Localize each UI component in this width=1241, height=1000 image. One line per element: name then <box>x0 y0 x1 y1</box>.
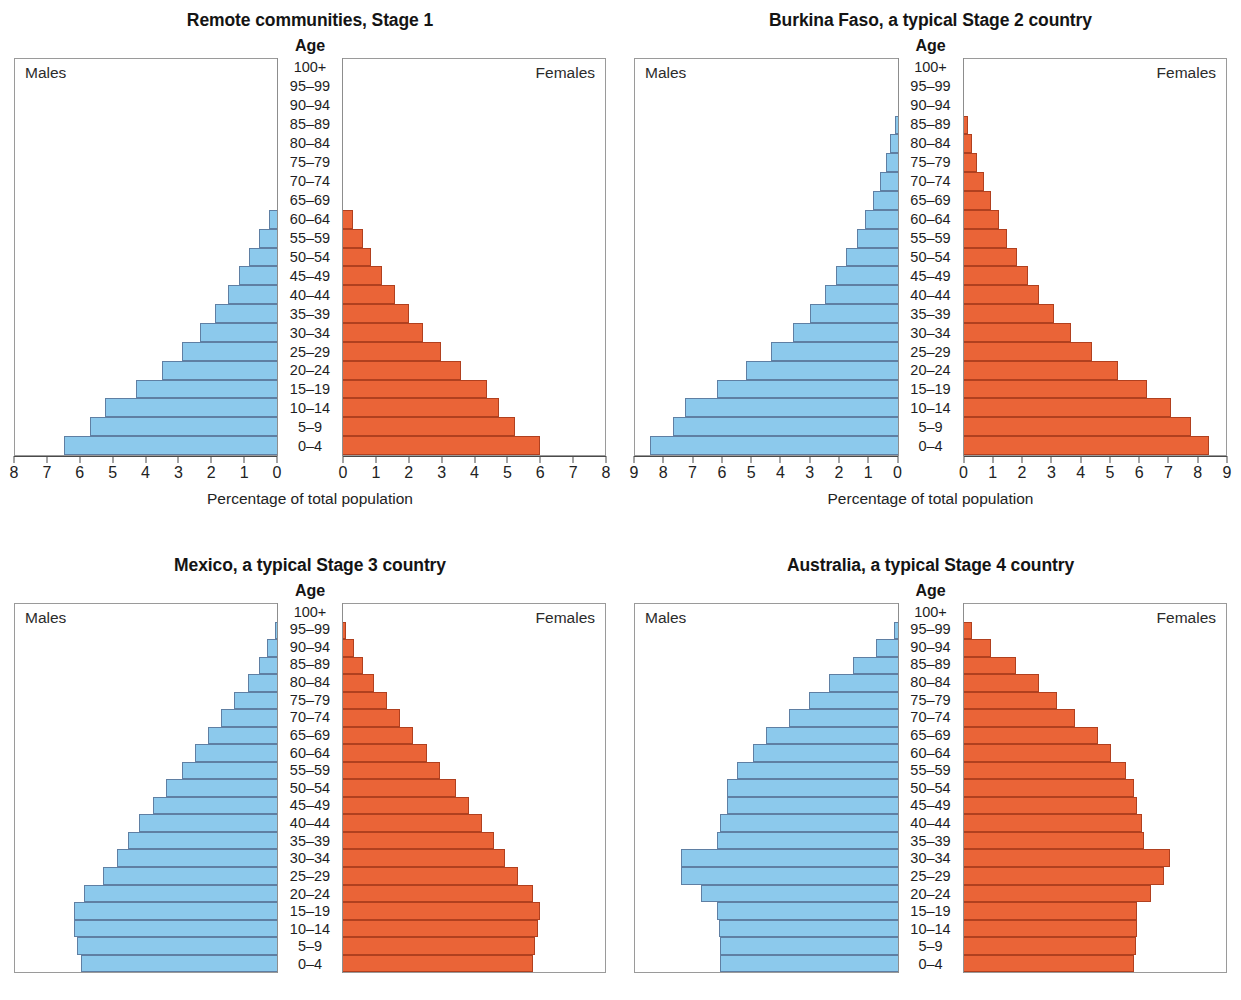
male-bar <box>259 657 277 675</box>
bar-row <box>343 604 605 622</box>
plot-area: Males 100+95–9990–9485–8980–8475–7970–74… <box>634 58 1227 456</box>
axis-tick-label: 6 <box>1135 464 1144 482</box>
bar-row <box>964 116 1227 135</box>
female-bar <box>964 210 999 229</box>
axis-wrap: 876543210 012345678 Percentage of total … <box>14 456 606 508</box>
bar-row <box>343 727 605 745</box>
age-group-label: 10–14 <box>278 399 342 418</box>
age-group-label: 5–9 <box>899 418 963 437</box>
bar-row <box>343 885 605 903</box>
bar-row <box>635 814 898 832</box>
axis-tick-label: 0 <box>339 464 348 482</box>
age-group-label: 20–24 <box>278 361 342 380</box>
bar-row <box>635 849 898 867</box>
bar-row <box>964 832 1227 850</box>
axis-tick-label: 8 <box>659 464 668 482</box>
bar-row <box>343 342 605 361</box>
age-group-label: 15–19 <box>899 380 963 399</box>
males-plot-box: Males <box>14 603 277 973</box>
male-bar <box>249 248 277 267</box>
bar-row <box>635 323 898 342</box>
bar-row <box>964 153 1227 172</box>
axis-tick-label: 7 <box>688 464 697 482</box>
male-bar <box>208 727 277 745</box>
male-bar <box>685 398 898 417</box>
female-bar <box>964 832 1144 850</box>
female-bar <box>964 639 992 657</box>
female-bar <box>964 727 1099 745</box>
male-bar <box>162 361 277 380</box>
bar-row <box>15 59 277 78</box>
age-label-column: 100+95–9990–9485–8980–8475–7970–7465–696… <box>277 603 343 973</box>
axis-tick-label: 2 <box>1018 464 1027 482</box>
bar-row <box>15 436 277 455</box>
male-bar <box>809 692 898 710</box>
male-bar <box>215 304 277 323</box>
bar-row <box>343 323 605 342</box>
axis-tick-label: 0 <box>893 464 902 482</box>
bar-row <box>964 323 1227 342</box>
age-group-label: 65–69 <box>899 191 963 210</box>
chart-panel-remote-communities: Remote communities, Stage 1 Age Males 10… <box>0 0 620 545</box>
male-bar <box>717 902 897 920</box>
female-bar <box>343 657 363 675</box>
male-bar <box>880 172 898 191</box>
bar-row <box>964 210 1227 229</box>
axis-tick-label: 2 <box>404 464 413 482</box>
female-bar <box>343 867 518 885</box>
axis-tick <box>112 456 113 463</box>
male-bar <box>766 727 897 745</box>
bar-row <box>635 248 898 267</box>
age-group-label: 10–14 <box>899 920 963 938</box>
bar-row <box>343 744 605 762</box>
age-group-label: 50–54 <box>278 248 342 267</box>
bar-row <box>343 436 605 455</box>
female-bar <box>964 902 1138 920</box>
age-label-column: 100+95–9990–9485–8980–8475–7970–7465–696… <box>898 603 964 973</box>
age-group-label: 30–34 <box>278 323 342 342</box>
male-bar <box>128 832 277 850</box>
axis-wrap: 9876543210 0123456789 Percentage of tota… <box>634 456 1227 508</box>
age-group-label: 40–44 <box>899 815 963 833</box>
bar-row <box>635 639 898 657</box>
bar-row <box>15 727 277 745</box>
axis-tick <box>838 456 839 463</box>
axis-tick <box>809 456 810 463</box>
bar-row <box>343 153 605 172</box>
age-axis-heading: Age <box>0 31 620 58</box>
female-bar <box>964 229 1008 248</box>
axis-tick <box>540 456 541 463</box>
female-bar <box>964 361 1119 380</box>
male-bar <box>873 191 898 210</box>
bar-row <box>964 867 1227 885</box>
age-group-label: 0–4 <box>278 956 342 974</box>
bar-row <box>635 744 898 762</box>
age-group-label: 15–19 <box>278 380 342 399</box>
axis-tick-label: 1 <box>371 464 380 482</box>
axis-tick <box>751 456 752 463</box>
age-group-label: 70–74 <box>278 172 342 191</box>
bar-row <box>15 191 277 210</box>
axis-tick <box>474 456 475 463</box>
axis-tick-label: 1 <box>864 464 873 482</box>
male-bar <box>117 849 277 867</box>
age-group-label: 95–99 <box>278 77 342 96</box>
axis-tick-label: 9 <box>630 464 639 482</box>
bar-row <box>964 709 1227 727</box>
bar-row <box>15 153 277 172</box>
male-bar <box>829 674 898 692</box>
male-bar <box>136 380 277 399</box>
age-group-label: 25–29 <box>899 342 963 361</box>
bar-row <box>964 622 1227 640</box>
axis-tick-label: 5 <box>1105 464 1114 482</box>
age-group-label: 10–14 <box>899 399 963 418</box>
bar-row <box>15 229 277 248</box>
bar-row <box>15 248 277 267</box>
bar-row <box>343 814 605 832</box>
bar-row <box>635 417 898 436</box>
male-bars <box>15 59 277 455</box>
bar-row <box>635 210 898 229</box>
age-group-label: 60–64 <box>278 744 342 762</box>
male-bar <box>239 266 277 285</box>
female-bar <box>964 285 1040 304</box>
